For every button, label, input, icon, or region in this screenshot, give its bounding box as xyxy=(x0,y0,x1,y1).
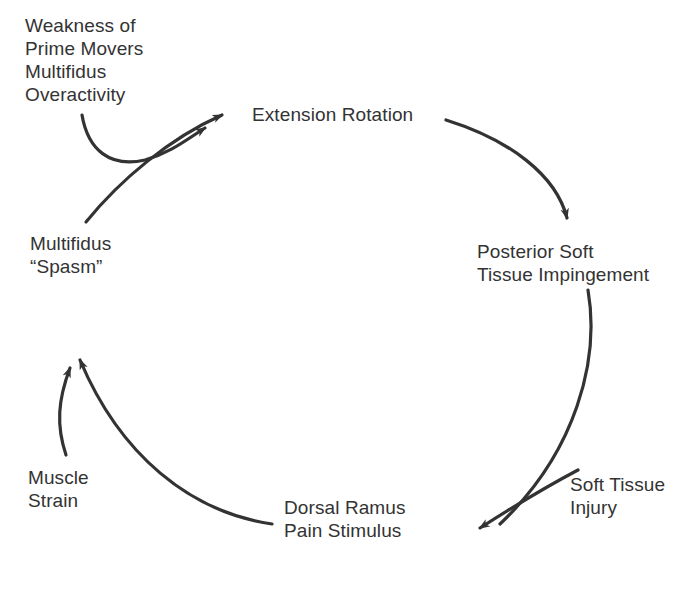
node-label-posterior-soft-tissue-impingement: Posterior Soft Tissue Impingement xyxy=(477,240,649,286)
node-label-dorsal-ramus-pain-stimulus: Dorsal Ramus Pain Stimulus xyxy=(284,496,406,542)
arrow-dorsal-to-multifidus xyxy=(80,360,272,524)
node-label-multifidus-spasm: Multifidus “Spasm” xyxy=(30,232,111,278)
node-label-weakness-prime-movers: Weakness of Prime Movers Multifidus Over… xyxy=(25,14,143,106)
node-label-muscle-strain: Muscle Strain xyxy=(28,466,89,512)
diagram-canvas: Weakness of Prime Movers Multifidus Over… xyxy=(0,0,696,601)
arrow-extension-to-posterior xyxy=(446,120,567,218)
arrow-soft-tissue-injury-to-dorsal xyxy=(480,470,578,528)
arrow-muscle-strain-to-multifidus xyxy=(60,368,70,455)
node-label-extension-rotation: Extension Rotation xyxy=(252,103,413,126)
arrow-weakness-to-extension xyxy=(82,115,205,162)
node-label-soft-tissue-injury: Soft Tissue Injury xyxy=(570,473,665,519)
